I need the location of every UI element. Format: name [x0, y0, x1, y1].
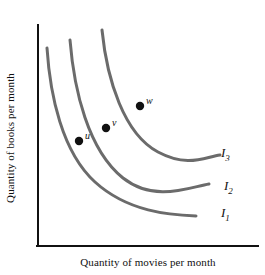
curve-label-i2-subscript: 2 [228, 186, 233, 196]
data-point-u [75, 137, 83, 145]
curves-group [47, 30, 220, 216]
point-label-u: u [85, 130, 90, 141]
indifference-curve-i2 [70, 40, 209, 192]
indifference-curve-i3 [102, 30, 220, 161]
curve-label-i1-subscript: 1 [225, 213, 230, 223]
curve-label-i1: I1 [221, 205, 230, 223]
indifference-curve-figure: Quantity of books per month Quantity of … [0, 0, 265, 275]
curve-label-i3-subscript: 3 [225, 153, 230, 163]
point-label-v: v [112, 117, 116, 128]
y-axis-label-text: Quantity of books per month [4, 73, 16, 203]
curve-label-i2: I2 [224, 178, 233, 196]
point-label-w: w [146, 95, 153, 106]
y-axis-label: Quantity of books per month [0, 0, 20, 275]
data-point-v [102, 124, 110, 132]
curve-label-i3: I3 [221, 145, 230, 163]
chart-canvas [0, 0, 265, 275]
x-axis-label: Quantity of movies per month [38, 256, 258, 268]
data-point-w [136, 102, 144, 110]
